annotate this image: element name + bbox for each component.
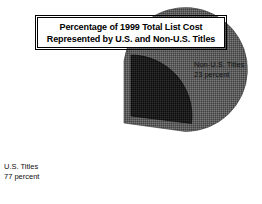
pie-chart-figure: Percentage of 1999 Total List Cost Repre… — [0, 0, 262, 204]
slice-label-non-us-titles: Non-U.S. Titles 23 percent — [194, 60, 244, 80]
slice-label-non-us-name: Non-U.S. Titles — [194, 60, 244, 70]
slice-label-us-value: 77 percent — [4, 172, 39, 182]
slice-label-us-titles: U.S. Titles 77 percent — [4, 162, 39, 182]
chart-title-box: Percentage of 1999 Total List Cost Repre… — [37, 17, 225, 48]
chart-title-line-2: Represented by U.S. and Non-U.S. Titles — [47, 33, 215, 45]
chart-title-line-1: Percentage of 1999 Total List Cost — [60, 21, 203, 33]
slice-label-non-us-value: 23 percent — [194, 70, 244, 80]
slice-label-us-name: U.S. Titles — [4, 162, 39, 172]
